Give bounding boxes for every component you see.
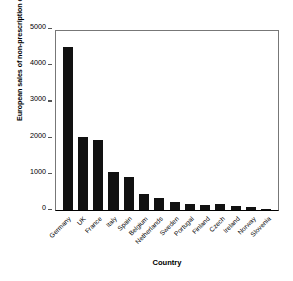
bar xyxy=(63,47,73,210)
x-tick-cell: Germany xyxy=(59,213,74,259)
bar-series xyxy=(56,31,278,210)
bar-cell xyxy=(182,31,197,210)
y-axis-tick: 3000 xyxy=(40,100,52,101)
x-tick-cell: Portugal xyxy=(182,213,197,259)
bar xyxy=(154,198,164,210)
x-tick-cell: Italy xyxy=(105,213,120,259)
x-tick-cell: Czech xyxy=(213,213,228,259)
bar-cell xyxy=(121,31,136,210)
bar xyxy=(108,172,118,210)
bar-cell xyxy=(198,31,213,210)
x-tick-cell: Ireland xyxy=(229,213,244,259)
bar-cell xyxy=(167,31,182,210)
chart-figure: European sales of non-prescription drugs… xyxy=(0,0,293,281)
bar xyxy=(246,207,256,210)
bar xyxy=(93,140,103,210)
x-axis-title: Country xyxy=(55,258,279,267)
y-tick-mark xyxy=(48,64,52,65)
bar-cell xyxy=(106,31,121,210)
bar xyxy=(170,202,180,210)
x-tick-cell: Slovenia xyxy=(259,213,274,259)
bar-cell xyxy=(91,31,106,210)
x-axis-tick-labels: GermanyUKFranceItalySpainBelgiumNetherla… xyxy=(55,213,279,259)
y-tick-mark xyxy=(48,28,52,29)
bar-cell xyxy=(213,31,228,210)
y-tick-label: 3000 xyxy=(6,94,46,103)
bar-cell xyxy=(136,31,151,210)
bar-cell xyxy=(152,31,167,210)
bar xyxy=(231,206,241,210)
x-tick-cell: France xyxy=(90,213,105,259)
y-tick-mark xyxy=(48,173,52,174)
bar xyxy=(78,137,88,210)
bar xyxy=(139,194,149,210)
x-tick-label: UK xyxy=(76,215,87,226)
y-axis-tick: 2000 xyxy=(40,137,52,138)
x-tick-cell: Sweden xyxy=(167,213,182,259)
y-axis-tick: 4000 xyxy=(40,64,52,65)
x-tick-cell: Netherlands xyxy=(152,213,167,259)
bar-cell xyxy=(228,31,243,210)
bar-cell xyxy=(75,31,90,210)
y-axis-tick: 5000 xyxy=(40,28,52,29)
bar xyxy=(261,209,271,210)
y-tick-mark xyxy=(48,209,52,210)
bar xyxy=(200,205,210,210)
x-tick-cell: UK xyxy=(74,213,89,259)
y-tick-label: 4000 xyxy=(6,58,46,67)
x-tick-cell: Spain xyxy=(121,213,136,259)
y-tick-label: 5000 xyxy=(6,22,46,31)
bar-cell xyxy=(259,31,274,210)
bar-cell xyxy=(243,31,258,210)
x-tick-cell: Finland xyxy=(198,213,213,259)
y-tick-label: 2000 xyxy=(6,131,46,140)
y-axis-tick: 1000 xyxy=(40,173,52,174)
y-tick-label: 0 xyxy=(6,203,46,212)
x-tick-label: Germany xyxy=(48,215,72,239)
y-axis-tick: 0 xyxy=(40,209,52,210)
y-tick-label: 1000 xyxy=(6,167,46,176)
y-tick-mark xyxy=(48,137,52,138)
bar xyxy=(124,177,134,210)
plot-area: 010002000300040005000 xyxy=(55,30,279,211)
bar xyxy=(215,204,225,210)
bar-cell xyxy=(60,31,75,210)
y-tick-mark xyxy=(48,100,52,101)
bar xyxy=(185,204,195,210)
